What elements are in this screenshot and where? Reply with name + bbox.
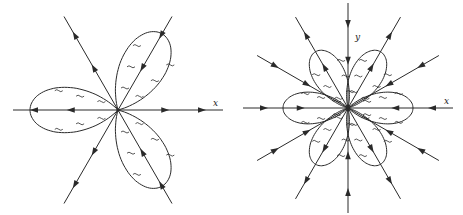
arrowhead-icon [386,176,392,184]
phase-portrait-canvas: x x y [0,0,463,215]
flow-arrow [55,90,63,92]
arrowhead-icon [302,130,310,136]
arrowhead-icon [92,147,98,155]
arrowhead-icon [73,180,79,188]
flow-arrow [312,74,320,76]
flow-arrow [363,114,371,116]
flow-arrow [133,45,141,47]
arrowhead-icon [345,57,351,65]
arrowhead-icon [322,64,328,72]
flow-arrow [317,118,325,120]
right-phase-portrait [243,3,453,213]
flow-arrow [323,86,331,88]
equilibrium-point [116,108,120,112]
arrowhead-icon [391,105,399,111]
trajectory-ray [64,17,118,111]
flow-arrow [379,118,387,120]
trajectory-ray [64,110,118,204]
flow-arrow [127,66,135,68]
flow-arrow [395,93,403,95]
flow-arrow [363,100,371,102]
arrowhead-icon [302,80,310,86]
arrowhead-icon [304,32,310,40]
flow-arrow [359,155,367,157]
flow-arrow [301,93,309,95]
arrowhead-icon [385,130,393,136]
trajectory-ray [118,17,172,111]
flow-arrow [323,129,331,131]
trajectory-ray [118,110,172,204]
arrowhead-icon [260,105,268,111]
flow-arrow [335,117,343,119]
arrowhead-icon [297,105,305,111]
arrowhead-icon [161,107,169,113]
petal-orbit [115,32,171,110]
arrowhead-icon [270,62,278,68]
flow-arrow [166,154,174,156]
trajectory-ray [348,56,439,109]
arrowhead-icon [386,32,392,40]
arrowhead-icon [270,148,278,154]
petal-orbit [115,110,171,188]
flow-arrow [317,97,325,99]
equilibrium-point [346,106,350,110]
flow-arrow [373,129,381,131]
flow-arrow [76,123,84,125]
right-y-axis-label: y [354,32,361,42]
flow-arrow [55,128,63,130]
flow-arrow [151,138,159,140]
arrowhead-icon [345,20,351,28]
flow-arrow [354,139,362,141]
flow-arrow [312,140,320,142]
flow-arrow [97,117,105,119]
arrowhead-icon [73,32,79,40]
trajectory-ray [348,108,439,161]
flow-arrow [379,97,387,99]
flow-arrow [354,75,362,77]
arrowhead-icon [92,64,98,72]
flow-arrow [121,87,129,89]
flow-arrow [121,131,129,133]
arrowhead-icon [140,149,146,157]
arrowhead-icon [367,144,373,152]
flow-arrow [76,95,84,97]
arrowhead-icon [417,62,425,68]
flow-arrow [133,173,141,175]
arrowhead-icon [30,107,38,113]
flow-arrow [166,64,174,66]
arrowhead-icon [140,63,146,71]
arrowhead-icon [322,144,328,152]
left-x-axis-label: x [213,98,218,108]
right-x-axis-label: x [444,96,449,106]
arrowhead-icon [345,151,351,159]
flow-arrow [136,123,144,125]
arrowhead-icon [428,105,436,111]
arrowhead-icon [417,148,425,154]
arrowhead-icon [345,188,351,196]
flow-arrow [359,59,367,61]
flow-arrow [97,101,105,103]
flow-arrow [151,80,159,82]
arrowhead-icon [367,64,373,72]
flow-arrow [136,95,144,97]
trajectory-ray [257,108,348,161]
flow-arrow [127,152,135,154]
arrowhead-icon [198,107,206,113]
arrowhead-icon [385,80,393,86]
arrowhead-icon [304,176,310,184]
arrowhead-icon [67,107,75,113]
left-phase-portrait [13,17,223,204]
